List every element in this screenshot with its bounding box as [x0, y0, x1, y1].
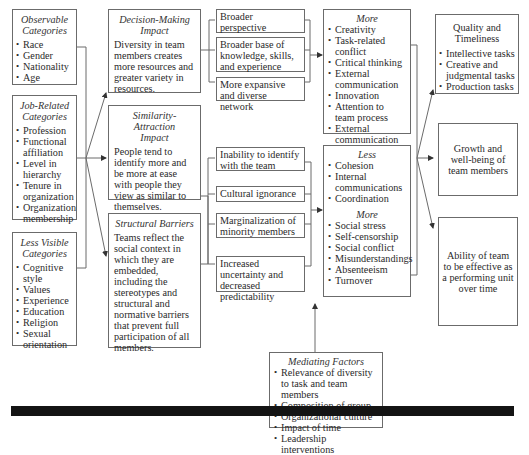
list-item: Coordination	[328, 193, 406, 204]
list-item: Religion	[16, 317, 73, 328]
list-item: Experience	[16, 295, 73, 306]
structural-barriers-box: Structural Barriers Teams reflect the so…	[108, 213, 201, 348]
list-item: Cohesion	[328, 160, 406, 171]
list-item: Social stress	[328, 220, 406, 231]
quality-timeliness-box: Quality and Timeliness Intellective task…	[435, 14, 519, 94]
list-item: Absenteeism	[328, 264, 406, 275]
decision-making-impact-text: Diversity in team members creates more r…	[114, 39, 195, 94]
title-line: Job-Related	[16, 100, 73, 111]
list-item: Attention to team process	[328, 101, 406, 123]
title-line: Categories	[16, 111, 73, 122]
title-line: Less Visible	[16, 237, 73, 248]
team-ability-box: Ability of team to be effective as a per…	[438, 217, 518, 326]
job-related-categories-box: Job-Related Categories Profession Functi…	[12, 95, 77, 220]
effect-broader-knowledge-base: Broader base of knowledge, skills, and e…	[216, 37, 305, 72]
list-item: Tenure in organization	[16, 180, 73, 202]
list-item: Education	[16, 306, 73, 317]
quality-timeliness-list: Intellective tasks Creative and judgment…	[439, 48, 515, 92]
job-related-categories-title: Job-Related Categories	[16, 100, 73, 122]
less-list: Cohesion Internal communications Coordin…	[328, 160, 406, 204]
list-item: Impact of time	[274, 422, 378, 433]
less-visible-list: Cognitive style Values Experience Educat…	[16, 262, 73, 350]
list-item: Gender	[16, 50, 73, 61]
list-item: Innovation	[328, 90, 406, 101]
less-more-negative-processes-box: Less Cohesion Internal communications Co…	[323, 145, 411, 297]
list-item: Leadership interventions	[274, 433, 378, 455]
list-item: Race	[16, 39, 73, 50]
less-visible-categories-title: Less Visible Categories	[16, 237, 73, 259]
list-item: Intellective tasks	[439, 48, 515, 59]
title-line: Categories	[16, 248, 73, 259]
list-item: External communication	[328, 68, 406, 90]
list-item: Level in hierarchy	[16, 158, 73, 180]
observable-list: Race Gender Nationality Age	[16, 39, 73, 83]
list-item: Critical thinking	[328, 57, 406, 68]
list-item: Production tasks	[439, 81, 515, 92]
observable-categories-title: Observable Categories	[16, 14, 73, 36]
list-item: External communication	[328, 123, 406, 145]
more-positive-list: Creativity Task-related conflict Critica…	[328, 24, 406, 156]
effect-cultural-ignorance: Cultural ignorance	[216, 186, 305, 202]
footer-bar	[11, 406, 514, 416]
list-item: Misunderstandings	[328, 253, 406, 264]
effect-increased-uncertainty: Increased uncertainty and decreased pred…	[216, 256, 305, 292]
more-negative-title: More	[328, 209, 406, 220]
effect-expansive-network: More expansive and diverse network	[216, 77, 305, 101]
list-item: Creative and judgmental tasks	[439, 59, 515, 81]
structural-barriers-title: Structural Barriers	[114, 218, 195, 229]
list-item: Relevance of diversity to task and team …	[274, 367, 378, 400]
title-line: Quality and	[439, 22, 515, 33]
title-line: Timeliness	[439, 33, 515, 44]
list-item: Profession	[16, 125, 73, 136]
mediating-factors-box: Mediating Factors Relevance of diversity…	[269, 352, 383, 428]
mediating-factors-title: Mediating Factors	[274, 356, 378, 367]
growth-wellbeing-text: Growth and well-being of team members	[443, 143, 513, 176]
more-positive-title: More	[328, 13, 406, 24]
team-ability-text: Ability of team to be effective as a per…	[442, 250, 514, 294]
effect-marginalization: Marginalization of minority members	[216, 213, 305, 238]
list-item: Social conflict	[328, 242, 406, 253]
growth-wellbeing-box: Growth and well-being of team members	[438, 123, 518, 196]
observable-categories-box: Observable Categories Race Gender Nation…	[12, 9, 77, 85]
list-item: Age	[16, 72, 73, 83]
effect-inability-to-identify: Inability to identify with the team	[216, 147, 305, 171]
list-item: Turnover	[328, 275, 406, 286]
job-related-list: Profession Functional affiliation Level …	[16, 125, 73, 224]
less-visible-categories-box: Less Visible Categories Cognitive style …	[12, 232, 77, 346]
more-positive-processes-box: More Creativity Task-related conflict Cr…	[323, 9, 411, 134]
list-item: Cognitive style	[16, 262, 73, 284]
decision-making-impact-box: Decision-Making Impact Diversity in team…	[108, 9, 201, 93]
quality-timeliness-title: Quality and Timeliness	[439, 22, 515, 44]
title-line: Decision-Making	[114, 14, 195, 25]
structural-barriers-text: Teams reflect the social context in whic…	[114, 232, 195, 353]
more-negative-list: Social stress Self-censorship Social con…	[328, 220, 406, 286]
decision-making-impact-title: Decision-Making Impact	[114, 14, 195, 36]
list-item: Values	[16, 284, 73, 295]
title-line: Impact	[114, 132, 195, 143]
title-line: Impact	[114, 25, 195, 36]
similarity-attraction-impact-title: Similarity-Attraction Impact	[114, 110, 195, 143]
title-line: Categories	[16, 25, 73, 36]
list-item: Nationality	[16, 61, 73, 72]
list-item: Internal communications	[328, 171, 406, 193]
title-line: Similarity-Attraction	[114, 110, 195, 132]
less-title: Less	[328, 149, 406, 160]
list-item: Task-related conflict	[328, 35, 406, 57]
title-line: Observable	[16, 14, 73, 25]
effect-broader-perspective: Broader perspective	[216, 9, 305, 33]
list-item: Organization membership	[16, 202, 73, 224]
list-item: Creativity	[328, 24, 406, 35]
list-item: Sexual orientation	[16, 328, 73, 350]
similarity-attraction-impact-box: Similarity-Attraction Impact People tend…	[108, 105, 201, 200]
list-item: Functional affiliation	[16, 136, 73, 158]
list-item: Self-censorship	[328, 231, 406, 242]
similarity-attraction-impact-text: People tend to identify more and be more…	[114, 146, 195, 212]
